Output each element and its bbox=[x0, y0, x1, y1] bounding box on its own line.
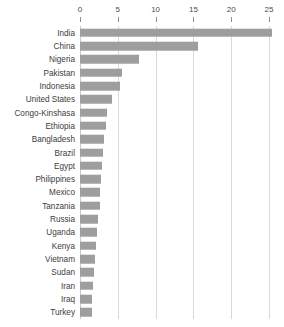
bar-row[interactable]: Philippines bbox=[0, 173, 284, 186]
bar[interactable] bbox=[80, 28, 272, 37]
x-tick-mark bbox=[269, 17, 270, 22]
bar[interactable] bbox=[80, 108, 107, 117]
category-label: Iraq bbox=[61, 295, 80, 304]
bar-rows: IndiaChinaNigeriaPakistanIndonesiaUnited… bbox=[0, 26, 284, 319]
bar-row[interactable]: Nigeria bbox=[0, 53, 284, 66]
category-label: Congo-Kinshasa bbox=[14, 108, 80, 117]
bar-row[interactable]: Vietnam bbox=[0, 252, 284, 265]
bar-row[interactable]: Ethiopia bbox=[0, 119, 284, 132]
category-label: Egypt bbox=[54, 161, 80, 170]
x-tick-mark bbox=[231, 17, 232, 22]
bar-row[interactable]: Tanzania bbox=[0, 199, 284, 212]
x-tick-label: 25 bbox=[265, 5, 274, 14]
category-label: China bbox=[54, 41, 80, 50]
category-label: Mexico bbox=[49, 188, 80, 197]
bar-chart: 0510152025 IndiaChinaNigeriaPakistanIndo… bbox=[0, 0, 284, 327]
bar[interactable] bbox=[80, 82, 120, 91]
category-label: United States bbox=[26, 95, 80, 104]
bar[interactable] bbox=[80, 68, 122, 77]
x-tick-label: 5 bbox=[116, 5, 120, 14]
category-label: Vietnam bbox=[45, 255, 80, 264]
bar[interactable] bbox=[80, 55, 139, 64]
bar-row[interactable]: Iraq bbox=[0, 292, 284, 305]
category-label: Tanzania bbox=[42, 201, 80, 210]
x-tick-mark bbox=[80, 17, 81, 22]
bar-row[interactable]: Pakistan bbox=[0, 66, 284, 79]
bar-row[interactable]: United States bbox=[0, 93, 284, 106]
category-label: Brazil bbox=[55, 148, 80, 157]
x-tick-label: 20 bbox=[227, 5, 236, 14]
bar-row[interactable]: Sudan bbox=[0, 266, 284, 279]
bar-row[interactable]: Bangladesh bbox=[0, 133, 284, 146]
bar[interactable] bbox=[80, 175, 101, 184]
category-label: Pakistan bbox=[44, 68, 80, 77]
bar-row[interactable]: India bbox=[0, 26, 284, 39]
x-tick-label: 0 bbox=[78, 5, 82, 14]
category-label: Philippines bbox=[35, 175, 80, 184]
bar[interactable] bbox=[80, 122, 106, 131]
x-tick-label: 15 bbox=[189, 5, 198, 14]
bar[interactable] bbox=[80, 308, 92, 317]
x-tick-label: 10 bbox=[151, 5, 160, 14]
category-label: Uganda bbox=[46, 228, 80, 237]
bar-row[interactable]: Mexico bbox=[0, 186, 284, 199]
category-label: Turkey bbox=[50, 308, 80, 317]
bar[interactable] bbox=[80, 42, 198, 51]
category-label: India bbox=[57, 28, 80, 37]
bar[interactable] bbox=[80, 162, 102, 171]
bar-row[interactable]: Egypt bbox=[0, 159, 284, 172]
x-tick-mark bbox=[193, 17, 194, 22]
bar-row[interactable]: Turkey bbox=[0, 306, 284, 319]
bar[interactable] bbox=[80, 95, 112, 104]
bar-row[interactable]: Russia bbox=[0, 212, 284, 225]
category-label: Indonesia bbox=[39, 81, 80, 90]
bar[interactable] bbox=[80, 201, 100, 210]
bar[interactable] bbox=[80, 148, 103, 157]
bar[interactable] bbox=[80, 241, 96, 250]
category-label: Russia bbox=[50, 215, 80, 224]
bar-row[interactable]: Iran bbox=[0, 279, 284, 292]
bar-row[interactable]: China bbox=[0, 39, 284, 52]
x-axis: 0510152025 bbox=[0, 0, 284, 26]
bar[interactable] bbox=[80, 255, 95, 264]
bar-row[interactable]: Brazil bbox=[0, 146, 284, 159]
category-label: Bangladesh bbox=[32, 135, 80, 144]
bar[interactable] bbox=[80, 215, 98, 224]
bar[interactable] bbox=[80, 135, 104, 144]
bar-row[interactable]: Kenya bbox=[0, 239, 284, 252]
x-tick-mark bbox=[118, 17, 119, 22]
bar[interactable] bbox=[80, 281, 93, 290]
bar[interactable] bbox=[80, 228, 97, 237]
bar[interactable] bbox=[80, 188, 100, 197]
category-label: Ethiopia bbox=[45, 121, 80, 130]
bar[interactable] bbox=[80, 295, 92, 304]
category-label: Sudan bbox=[51, 268, 80, 277]
bar[interactable] bbox=[80, 268, 94, 277]
bar-row[interactable]: Indonesia bbox=[0, 79, 284, 92]
category-label: Iran bbox=[61, 281, 80, 290]
category-label: Nigeria bbox=[49, 55, 80, 64]
bar-row[interactable]: Uganda bbox=[0, 226, 284, 239]
x-tick-mark bbox=[156, 17, 157, 22]
bar-row[interactable]: Congo-Kinshasa bbox=[0, 106, 284, 119]
category-label: Kenya bbox=[52, 241, 80, 250]
